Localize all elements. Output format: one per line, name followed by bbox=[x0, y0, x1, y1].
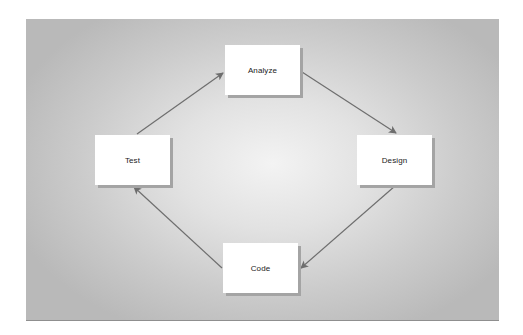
node-code: Code bbox=[223, 243, 298, 293]
node-analyze: Analyze bbox=[225, 45, 300, 95]
node-label: Test bbox=[125, 156, 140, 165]
node-label: Design bbox=[382, 156, 408, 165]
arrow-code-to-test bbox=[134, 187, 222, 268]
arrow-test-to-analyze bbox=[137, 73, 223, 134]
arrow-design-to-code bbox=[301, 186, 395, 268]
node-test: Test bbox=[95, 135, 170, 185]
arrow-analyze-to-design bbox=[302, 72, 396, 133]
node-label: Code bbox=[251, 264, 271, 273]
node-label: Analyze bbox=[248, 66, 277, 75]
node-design: Design bbox=[357, 135, 432, 185]
